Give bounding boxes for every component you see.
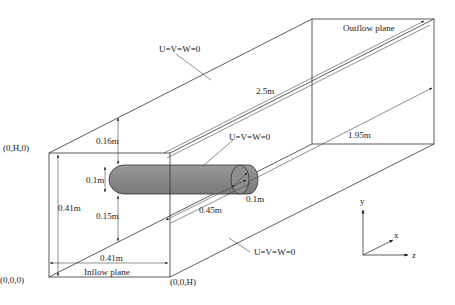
edge-bottom-left — [49, 144, 312, 277]
outflow-plane-label: Outflow plane — [343, 23, 395, 33]
dim-cylinder-end-diameter-label: 0.1m — [246, 194, 264, 204]
bc-bottom-wall-label: U=V=W=0 — [254, 247, 296, 257]
bc-top-wall-label: U=V=W=0 — [159, 44, 201, 54]
dim-gap-bottom-label: 0.15m — [96, 211, 119, 221]
bc-cylinder-label: U=V=W=0 — [229, 132, 271, 142]
corner-label-bottom-left: (0,0,0) — [0, 275, 24, 285]
leader-bottom-wall — [229, 238, 250, 252]
corner-label-top-left: (0,H,0) — [3, 143, 29, 153]
axes-triad — [363, 210, 408, 255]
dim-cylinder-to-outflow-label: 1.95m — [348, 130, 371, 140]
leader-top-wall — [176, 54, 211, 80]
cylinder — [109, 165, 258, 194]
channel-edges — [49, 19, 434, 277]
dim-cylinder-to-inflow-label: 0.45m — [199, 205, 222, 215]
edge-top-right — [170, 19, 434, 153]
leader-cylinder — [203, 140, 233, 166]
dim-channel-length-label: 2.5m — [256, 86, 274, 96]
y-axis-label: y — [360, 196, 365, 206]
corner-label-bottom-right: (0,0,H) — [170, 277, 196, 287]
dim-height-label: 0.41m — [58, 203, 81, 213]
outflow-plane — [312, 19, 434, 144]
inflow-plane-label: Inflow plane — [84, 267, 130, 277]
z-axis-label: z — [412, 250, 416, 260]
dim-width-label: 0.41m — [100, 253, 123, 263]
dim-gap-top-label: 0.16m — [96, 136, 119, 146]
x-axis-label: x — [394, 230, 399, 240]
domain-diagram: (0,H,0) (0,0,0) (0,0,H) Inflow plane Out… — [0, 0, 455, 305]
dim-cylinder-diameter-label: 0.1m — [86, 175, 104, 185]
x-axis-arrow — [363, 240, 393, 255]
